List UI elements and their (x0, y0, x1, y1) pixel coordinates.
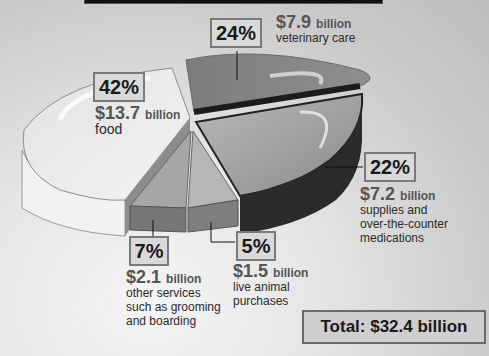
total-box: Total: $32.4 billion (302, 310, 486, 344)
pct-vet: 24% (210, 18, 262, 48)
label-supplies: $7.2 billion supplies and over-the-count… (360, 187, 448, 245)
pct-live: 5% (236, 231, 276, 261)
pct-food: 42% (93, 72, 145, 102)
label-food: $13.7 billion food (95, 106, 180, 136)
label-other: $2.1 billion other services such as groo… (126, 270, 221, 328)
label-vet: $7.9 billion veterinary care (276, 15, 355, 45)
label-live: $1.5 billion live animal purchases (233, 264, 308, 308)
amount-vet: $7.9 (276, 12, 311, 32)
pct-other: 7% (129, 236, 169, 266)
pct-supplies: 22% (364, 152, 416, 182)
